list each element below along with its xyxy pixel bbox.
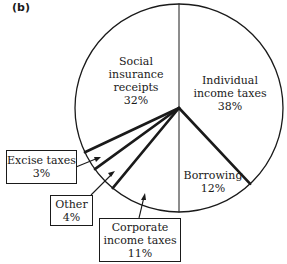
label-line: 12% — [184, 182, 243, 195]
slice-label-borrowing: Borrowing 12% — [184, 169, 243, 195]
label-line: Social — [109, 55, 164, 68]
label-line: 4% — [51, 211, 92, 224]
callout-box-excise: Excise taxes 3% — [6, 150, 77, 184]
label-line: 32% — [109, 94, 164, 107]
label-line: income taxes — [100, 234, 180, 247]
label-line: Individual — [193, 74, 266, 87]
slice-label-social: Social insurance receipts 32% — [109, 55, 164, 107]
label-line: receipts — [109, 81, 164, 94]
label-line: Excise taxes — [7, 154, 76, 167]
label-line: Corporate — [100, 221, 180, 234]
callout-box-corporate: Corporate income taxes 11% — [99, 218, 181, 262]
label-line: 38% — [193, 100, 266, 113]
label-line: 3% — [7, 167, 76, 180]
label-line: Borrowing — [184, 169, 243, 182]
label-line: income taxes — [193, 87, 266, 100]
label-line: 11% — [100, 247, 180, 260]
label-line: insurance — [109, 68, 164, 81]
callout-box-other: Other 4% — [50, 195, 93, 226]
label-line: Other — [51, 198, 92, 211]
slice-label-individual: Individual income taxes 38% — [193, 74, 266, 113]
